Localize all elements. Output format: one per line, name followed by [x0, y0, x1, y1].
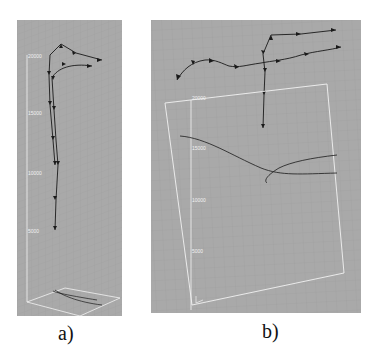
panel-a-side-view: 20000 15000 10000 5000: [17, 20, 122, 316]
caption-b: b): [262, 320, 279, 343]
panel-b-plot: 20000 15000 10000 5000: [151, 20, 361, 313]
tick-label: 15000: [192, 145, 206, 151]
panel-a-plot: 20000 15000 10000 5000: [17, 20, 122, 316]
caption-a: a): [58, 322, 74, 345]
tick-label: 5000: [192, 248, 203, 254]
tick-label: 5000: [28, 228, 39, 234]
panel-b-top-view: 20000 15000 10000 5000: [151, 20, 361, 313]
tick-label: 20000: [28, 53, 42, 59]
tick-label: 15000: [28, 110, 42, 116]
tick-label: 10000: [192, 197, 206, 203]
tick-label: 10000: [28, 170, 42, 176]
